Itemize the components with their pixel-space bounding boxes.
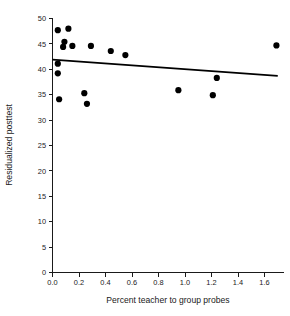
y-axis-ticks: 05101520253035404550 — [38, 14, 53, 277]
x-tick-label: 1.0 — [180, 278, 190, 287]
data-point — [88, 43, 94, 49]
y-tick-label: 25 — [38, 141, 46, 150]
scatter-plot-figure: 05101520253035404550 0.00.20.40.60.81.01… — [0, 0, 290, 316]
trend-line — [53, 60, 278, 76]
x-axis-title: Percent teacher to group probes — [106, 295, 229, 305]
x-tick-label: 1.4 — [233, 278, 243, 287]
x-tick-label: 0.6 — [127, 278, 137, 287]
y-tick-label: 45 — [38, 40, 46, 49]
y-tick-label: 50 — [38, 14, 46, 23]
data-point — [60, 44, 66, 50]
data-point — [55, 70, 61, 76]
data-point — [108, 48, 114, 54]
y-tick-label: 5 — [42, 243, 46, 252]
data-point — [55, 61, 61, 67]
data-point — [65, 26, 71, 32]
axes — [53, 19, 284, 273]
data-point — [69, 43, 75, 49]
data-point — [214, 75, 220, 81]
data-point — [210, 92, 216, 98]
y-tick-label: 10 — [38, 217, 46, 226]
y-tick-label: 15 — [38, 192, 46, 201]
x-tick-label: 0.2 — [74, 278, 84, 287]
y-tick-label: 35 — [38, 90, 46, 99]
x-tick-label: 0.8 — [153, 278, 163, 287]
y-tick-label: 40 — [38, 65, 46, 74]
x-axis-ticks: 0.00.20.40.60.81.01.21.41.6 — [47, 273, 269, 288]
y-tick-label: 30 — [38, 116, 46, 125]
chart-canvas: 05101520253035404550 0.00.20.40.60.81.01… — [0, 0, 290, 316]
data-point — [56, 96, 62, 102]
data-point — [122, 52, 128, 58]
x-tick-label: 0.0 — [47, 278, 57, 287]
regression-line — [53, 60, 278, 76]
y-axis-title: Residualized posttest — [4, 104, 14, 186]
x-tick-label: 0.4 — [100, 278, 110, 287]
data-point — [273, 42, 279, 48]
x-tick-label: 1.6 — [259, 278, 269, 287]
y-tick-label: 20 — [38, 167, 46, 176]
data-point — [84, 101, 90, 107]
data-point — [55, 27, 61, 33]
data-points — [55, 26, 280, 107]
y-tick-label: 0 — [42, 268, 46, 277]
data-point — [175, 87, 181, 93]
data-point — [81, 90, 87, 96]
x-tick-label: 1.2 — [206, 278, 216, 287]
